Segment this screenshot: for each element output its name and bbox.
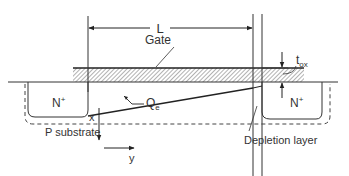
- channel-line: [88, 88, 253, 116]
- tox-label: tox: [296, 53, 308, 69]
- depletion-boundary: [25, 84, 330, 124]
- substrate-label: P substrate: [45, 126, 100, 138]
- depletion-label: Depletion layer: [244, 134, 318, 146]
- gate-label: Gate: [145, 33, 171, 47]
- gate-oxide: [73, 68, 304, 82]
- charge-label: Qe: [146, 96, 160, 112]
- y-axis-label: y: [129, 152, 135, 164]
- drain-label: N+: [290, 95, 304, 110]
- mosfet-diagram: L Gate N+ N+ Qe x P substrate y tox Depl…: [0, 0, 349, 176]
- x-axis-label: x: [89, 111, 95, 123]
- channel-line-ext: [253, 86, 262, 88]
- gate-leader-line: [156, 47, 174, 67]
- source-label: N+: [52, 95, 66, 110]
